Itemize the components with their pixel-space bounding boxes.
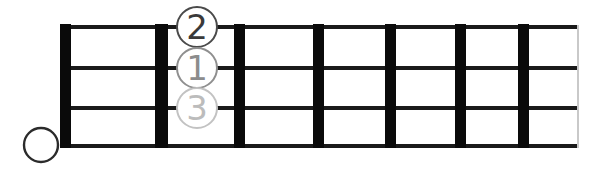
- chord-diagram: 2 1 3: [0, 0, 604, 171]
- finger-marker-2[interactable]: 2: [176, 6, 218, 48]
- fret-bar-6: [518, 24, 529, 148]
- finger-marker-1[interactable]: 1: [176, 47, 218, 89]
- board-right-edge: [577, 25, 579, 148]
- nut-bar: [60, 24, 71, 148]
- fret-bar-3: [313, 24, 324, 148]
- fret-bar-1: [155, 24, 168, 148]
- fretboard-graphic: [0, 0, 604, 171]
- fret-bar-4: [385, 24, 396, 148]
- finger-marker-3-label: 3: [186, 91, 208, 125]
- finger-marker-1-label: 1: [186, 51, 208, 85]
- finger-marker-2-label: 2: [186, 10, 208, 44]
- fret-bar-2: [234, 24, 245, 148]
- fret-bar-5: [455, 24, 466, 148]
- finger-marker-3[interactable]: 3: [176, 87, 218, 129]
